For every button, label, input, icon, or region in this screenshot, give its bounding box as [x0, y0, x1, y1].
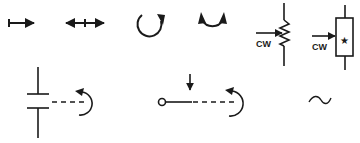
rotary-arrow-icon [137, 14, 165, 36]
alternating-current-icon [309, 96, 331, 103]
variable-capacitor-icon [27, 67, 92, 138]
linear-motion-arrow-icon [9, 19, 34, 27]
variable-resistor-icon [256, 3, 289, 66]
bidirectional-rotary-arrow-icon [198, 12, 227, 26]
bidirectional-linear-arrow-icon [66, 19, 104, 27]
star-icon: ★ [340, 35, 349, 46]
cw-label: CW [256, 39, 271, 49]
symbols-diagram: CW CW ★ [0, 0, 360, 143]
rotary-switch-icon [159, 74, 244, 116]
cw-label: CW [312, 42, 327, 52]
